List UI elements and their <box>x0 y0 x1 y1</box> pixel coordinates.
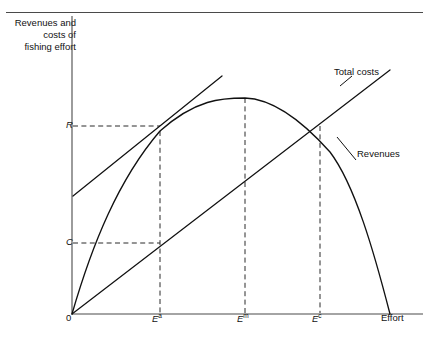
x-tick-label-Ec: Ec <box>312 312 322 324</box>
x-tick-Ea-superscript: a <box>158 312 162 319</box>
plot-area <box>0 0 429 341</box>
x-tick-Em-superscript: m <box>243 312 248 319</box>
revenues-label: Revenues <box>357 148 400 159</box>
x-tick-Ec-superscript: c <box>318 312 321 319</box>
x-axis-label: Effort <box>381 312 404 323</box>
revenues-curve <box>72 98 390 314</box>
y-tick-label-R: R <box>66 119 73 130</box>
revenues-leader-line <box>337 137 356 160</box>
tangent-line-at-Ea <box>73 76 222 196</box>
total-costs-leader-line <box>340 76 352 86</box>
x-tick-label-Em: Em <box>237 312 249 324</box>
total-costs-label: Total costs <box>334 66 379 77</box>
origin-label: 0 <box>66 312 71 323</box>
y-tick-label-C: C <box>66 236 73 247</box>
x-tick-label-Ea: Ea <box>152 312 162 324</box>
figure-canvas: Revenues and costs of fishing effort R C… <box>0 0 429 341</box>
